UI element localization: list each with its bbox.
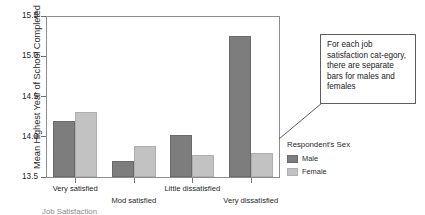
x-axis-label-2: Little dissatisfied (137, 184, 247, 193)
bar-female-0 (75, 112, 97, 177)
bar-female-2 (192, 155, 214, 177)
y-axis-tick-label: 14.0 (0, 132, 38, 141)
x-axis-title: Job Satisfaction (42, 207, 192, 215)
y-axis-tick-label: 15.0 (0, 51, 38, 60)
callout-leader-line (278, 102, 323, 140)
legend-swatch-female-icon (287, 168, 298, 176)
legend-title: Respondent's Sex (287, 140, 350, 149)
bar-female-3 (251, 153, 273, 177)
legend-swatch-male-icon (287, 155, 298, 163)
x-axis-tick-mark (75, 178, 76, 183)
y-axis-tick-label: 13.5 (0, 172, 38, 181)
legend-item-male: Male (287, 154, 350, 163)
y-axis-title: Mean Highest Year of School Completed (32, 0, 42, 177)
x-axis-line (46, 177, 280, 178)
y-axis-tick-label: 14.5 (0, 92, 38, 101)
legend-label-female: Female (302, 167, 327, 176)
bar-female-1 (134, 146, 156, 177)
x-axis-label-3: Very dissatisfied (196, 196, 306, 205)
bar-male-0 (53, 121, 75, 177)
bar-male-1 (112, 161, 134, 177)
y-axis-tick-label: 15.5 (0, 11, 38, 20)
x-axis-tick-mark (251, 178, 252, 183)
x-axis-label-1: Mod satisfied (79, 196, 189, 205)
legend-label-male: Male (302, 154, 318, 163)
bar-chart: Mean Highest Year of School Completed 13… (0, 0, 425, 215)
legend-item-female: Female (287, 167, 350, 176)
callout-text: For each job satisfaction cat-egory, the… (327, 40, 409, 93)
callout-annotation: For each job satisfaction cat-egory, the… (320, 34, 416, 104)
x-axis-tick-mark (192, 178, 193, 183)
bar-male-3 (229, 36, 251, 177)
bar-male-2 (170, 135, 192, 177)
legend: Respondent's Sex Male Female (287, 140, 350, 180)
x-axis-tick-mark (134, 178, 135, 183)
x-axis-label-0: Very satisfied (20, 184, 130, 193)
